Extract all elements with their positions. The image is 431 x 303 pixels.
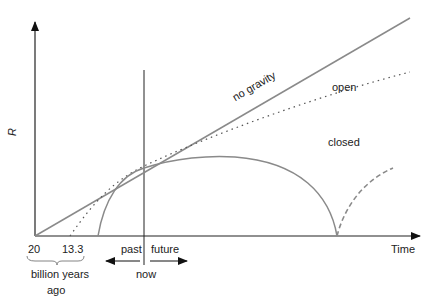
closed-label: closed <box>328 136 360 148</box>
future-label: future <box>151 243 179 255</box>
x-axis-label: Time <box>391 243 415 255</box>
billion-years-label: billion years <box>31 268 89 280</box>
tick-13-3: 13.3 <box>62 243 83 255</box>
closed-curve <box>98 156 337 236</box>
universe-expansion-diagram <box>0 0 431 303</box>
open-label: open <box>332 81 356 93</box>
rebound-curve <box>337 168 393 236</box>
ago-label: ago <box>47 284 65 296</box>
tick-20: 20 <box>28 243 40 255</box>
no-gravity-line <box>35 18 410 236</box>
y-axis-label: R <box>6 128 18 136</box>
past-label: past <box>121 243 142 255</box>
now-label: now <box>136 268 156 280</box>
brace <box>27 256 84 265</box>
